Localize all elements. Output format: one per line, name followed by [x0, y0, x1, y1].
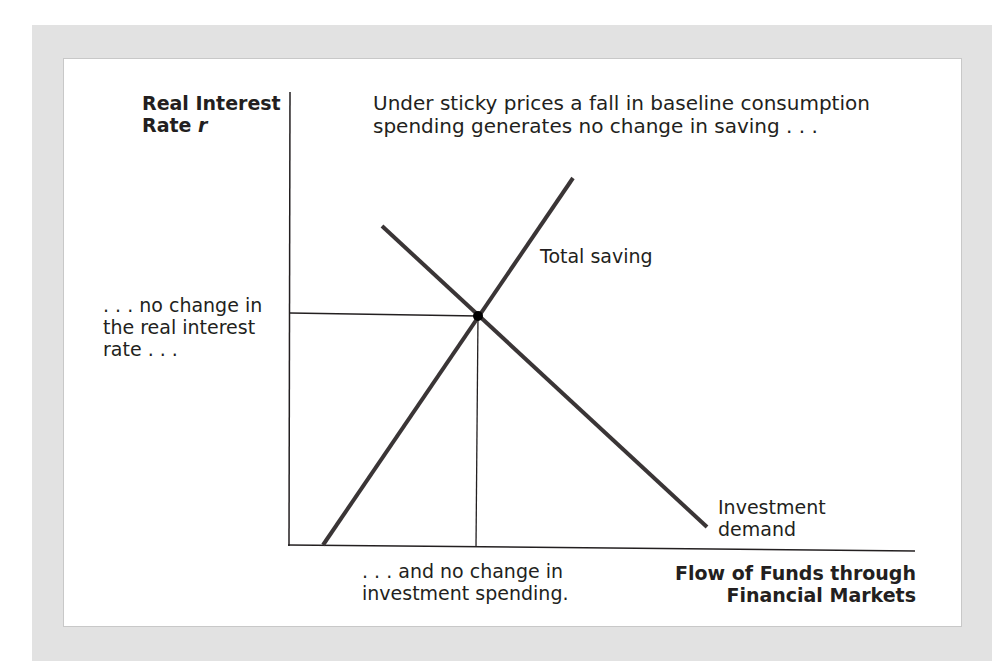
total-saving-curve [323, 178, 573, 545]
x-axis [288, 545, 915, 551]
interest-rate-annotation-line1: . . . no change in [103, 294, 262, 316]
interest-rate-guide-line [290, 313, 478, 316]
investment-spending-annotation: . . . and no change in investment spendi… [362, 560, 569, 604]
investment-spending-annotation-line1: . . . and no change in [362, 560, 569, 582]
x-axis-label-line2: Financial Markets [675, 584, 916, 606]
chart-title-line1: Under sticky prices a fall in baseline c… [373, 92, 870, 115]
total-saving-label: Total saving [540, 245, 653, 267]
y-axis-label-text: Rate [142, 114, 198, 136]
investment-guide-line [476, 316, 478, 547]
investment-demand-label: Investment demand [718, 496, 826, 540]
chart-title: Under sticky prices a fall in baseline c… [373, 92, 870, 138]
y-axis-variable: r [198, 114, 207, 136]
investment-demand-curve [382, 226, 707, 527]
y-axis-label: Real Interest Rate r [142, 92, 281, 136]
y-axis-label-line2: Rate r [142, 114, 281, 136]
interest-rate-annotation-line2: the real interest [103, 316, 262, 338]
investment-spending-annotation-line2: investment spending. [362, 582, 569, 604]
chart-title-line2: spending generates no change in saving .… [373, 115, 870, 138]
equilibrium-point [473, 311, 483, 321]
investment-demand-label-line2: demand [718, 518, 826, 540]
investment-demand-label-line1: Investment [718, 496, 826, 518]
x-axis-label: Flow of Funds through Financial Markets [675, 562, 916, 606]
interest-rate-annotation: . . . no change in the real interest rat… [103, 294, 262, 360]
x-axis-label-line1: Flow of Funds through [675, 562, 916, 584]
interest-rate-annotation-line3: rate . . . [103, 338, 262, 360]
y-axis-label-line1: Real Interest [142, 92, 281, 114]
y-axis [289, 92, 290, 546]
